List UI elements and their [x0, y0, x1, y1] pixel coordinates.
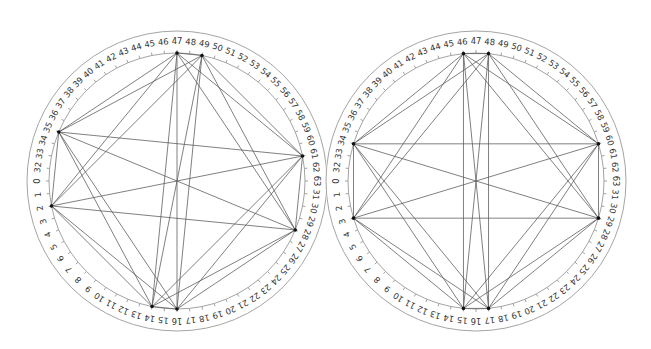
slot-label: 47 — [471, 36, 482, 46]
right-circle-panel: 0323334353637383940414243444546474849505… — [0, 0, 651, 349]
graph-edge — [354, 54, 464, 219]
tick-mark — [383, 88, 385, 90]
tick-mark — [450, 307, 451, 310]
tick-mark — [450, 53, 451, 56]
tick-mark — [602, 206, 605, 207]
graph-node-29 — [597, 216, 601, 220]
slot-label: 20 — [523, 304, 537, 317]
slot-label: 58 — [593, 108, 607, 122]
slot-label: 48 — [484, 36, 496, 47]
slot-label: 15 — [456, 315, 468, 326]
slot-label: 2 — [333, 205, 344, 212]
slot-label: 16 — [471, 316, 482, 326]
tick-mark — [536, 294, 537, 297]
slot-label: 42 — [403, 51, 417, 65]
graph-node-34 — [352, 142, 356, 146]
tick-mark — [594, 230, 597, 231]
tick-mark — [589, 241, 592, 242]
tick-mark — [513, 56, 514, 59]
slot-label: 0 — [331, 178, 341, 183]
slot-label: 34 — [336, 134, 349, 147]
slot-label: 60 — [604, 134, 617, 147]
tick-mark — [501, 307, 502, 310]
slot-label: 25 — [577, 263, 592, 278]
slot-label: 14 — [442, 312, 454, 324]
slot-label: 45 — [442, 38, 454, 50]
slot-label: 26 — [585, 252, 599, 266]
tick-mark — [557, 80, 559, 82]
slot-label: 43 — [416, 45, 430, 58]
tick-mark — [602, 155, 605, 156]
slot-label: 17 — [484, 315, 496, 326]
slot-label: 49 — [497, 38, 509, 50]
tick-mark — [393, 80, 395, 82]
graph-node-46 — [462, 52, 466, 56]
slot-label: 22 — [547, 290, 561, 304]
slot-label: 29 — [604, 215, 617, 228]
slot-label: 24 — [568, 273, 583, 288]
tick-mark — [438, 303, 439, 306]
tick-mark — [525, 60, 526, 63]
graph-node-3 — [352, 216, 356, 220]
slot-label: 46 — [456, 36, 468, 47]
slot-label: 36 — [346, 108, 360, 122]
slot-label: 9 — [382, 284, 392, 295]
tick-mark — [547, 72, 549, 74]
tick-mark — [375, 98, 377, 100]
graph-edge — [354, 218, 464, 308]
tick-mark — [375, 262, 377, 264]
tick-mark — [557, 280, 559, 282]
slot-label: 28 — [599, 228, 612, 242]
slot-label: 8 — [372, 275, 383, 286]
slot-label: 62 — [610, 161, 621, 173]
tick-mark — [348, 155, 351, 156]
tick-mark — [567, 272, 569, 274]
slot-label: 27 — [593, 240, 607, 254]
slot-label: 7 — [362, 265, 373, 275]
slot-label: 13 — [429, 309, 442, 322]
graph-edge — [463, 218, 598, 308]
slot-label: 40 — [380, 66, 395, 81]
tick-mark — [582, 108, 584, 110]
right-circle-graph: 0323334353637383940414243444546474849505… — [0, 0, 651, 349]
tick-mark — [594, 131, 597, 132]
tick-mark — [367, 252, 369, 254]
slot-label: 5 — [347, 242, 358, 251]
graph-edge — [354, 54, 489, 144]
tick-mark — [403, 287, 405, 289]
graph-node-60 — [597, 142, 601, 146]
tick-mark — [525, 299, 526, 302]
slot-label: 41 — [391, 57, 405, 71]
graph-node-17 — [487, 307, 491, 311]
slot-label: 54 — [558, 66, 573, 81]
tick-mark — [582, 252, 584, 254]
tick-mark — [513, 303, 514, 306]
slot-label: 53 — [547, 57, 561, 71]
graph-node-15 — [462, 307, 466, 311]
tick-mark — [393, 280, 395, 282]
slot-label: 31 — [610, 189, 621, 201]
slot-label: 50 — [510, 41, 523, 54]
tick-mark — [575, 98, 577, 100]
slot-label: 11 — [403, 298, 417, 312]
slot-label: 59 — [599, 121, 612, 135]
tick-mark — [426, 299, 427, 302]
graph-edge — [489, 54, 599, 144]
graph-edge — [489, 54, 599, 219]
graph-node-48 — [487, 52, 491, 56]
slot-label: 39 — [370, 75, 385, 90]
tick-mark — [536, 65, 537, 68]
slot-label: 33 — [333, 147, 345, 159]
graph-edge — [489, 144, 599, 309]
tick-mark — [438, 56, 439, 59]
tick-mark — [567, 88, 569, 90]
tick-mark — [501, 53, 502, 56]
slot-label: 10 — [391, 290, 405, 304]
slot-label: 6 — [354, 254, 365, 264]
slot-label: 37 — [352, 96, 366, 110]
graph-edge — [489, 218, 599, 308]
tick-mark — [355, 131, 358, 132]
slot-label: 23 — [558, 282, 573, 297]
slot-label: 30 — [607, 202, 619, 214]
tick-mark — [414, 65, 415, 68]
